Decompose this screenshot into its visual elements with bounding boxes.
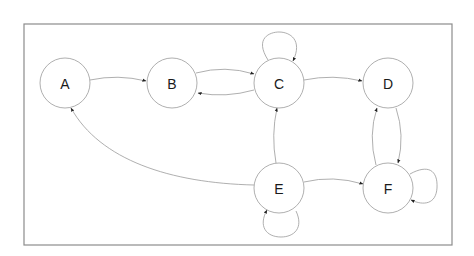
node-f-label: F: [384, 181, 393, 197]
node-a[interactable]: A: [40, 58, 90, 108]
edge-b-to-c: [196, 69, 254, 74]
edge-f-to-d: [372, 108, 377, 165]
edge-e-to-a: [71, 108, 254, 185]
edge-e-to-c: [274, 108, 277, 163]
edge-e-to-f: [304, 179, 363, 184]
node-c-label: C: [274, 76, 284, 92]
node-b[interactable]: B: [147, 58, 197, 108]
node-a-label: A: [60, 76, 70, 92]
node-c[interactable]: C: [254, 58, 304, 108]
node-e-label: E: [274, 181, 283, 197]
edge-a-to-b: [90, 77, 146, 81]
edge-c-to-b: [198, 90, 254, 95]
edge-c-to-c: [262, 32, 296, 61]
node-e[interactable]: E: [254, 163, 304, 213]
node-d-label: D: [383, 76, 393, 92]
node-f[interactable]: F: [363, 163, 413, 213]
edge-e-to-e: [263, 210, 299, 237]
edge-d-to-f: [396, 108, 401, 163]
node-d[interactable]: D: [363, 58, 413, 108]
edge-c-to-d: [304, 77, 362, 81]
state-diagram: A B C D E F: [0, 0, 474, 256]
edge-f-to-f: [410, 169, 437, 203]
node-b-label: B: [167, 76, 176, 92]
